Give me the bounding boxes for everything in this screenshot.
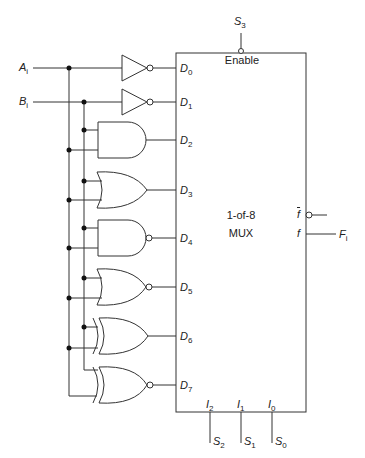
output-fi-label: Fi [339,229,348,243]
f-bar-label: f [297,209,300,220]
i0-label: I0 [268,399,276,413]
i2-label: I2 [206,399,214,413]
enable-label: Enable [221,55,263,66]
d5-label: D5 [180,282,192,296]
d0-label: D0 [180,63,192,77]
s0-label: S0 [275,436,287,450]
mux-type-label: 1-of-8 [216,210,266,221]
f-label: f [297,228,300,239]
d3-label: D3 [180,185,192,199]
input-a-label: Ai [19,62,28,76]
d6-label: D6 [180,331,192,345]
i1-label: I1 [237,399,245,413]
mux-name-label: MUX [216,228,266,239]
d2-label: D2 [180,135,192,149]
d7-label: D7 [180,380,192,394]
s1-label: S1 [244,436,256,450]
enable-signal-label: S3 [234,16,246,30]
d4-label: D4 [180,233,192,247]
d1-label: D1 [180,97,192,111]
input-b-label: Bi [19,96,28,110]
s2-label: S2 [213,436,225,450]
